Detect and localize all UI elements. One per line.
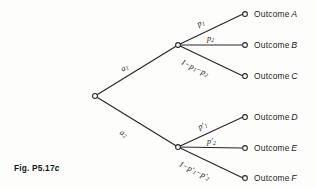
outcome-label-a: OutcomeA [254, 10, 297, 19]
outcome-label-f: OutcomeF [254, 174, 297, 183]
chance-node-lower [176, 145, 181, 150]
outcome-label-d: OutcomeD [254, 113, 298, 122]
outcome-label-b: OutcomeB [254, 41, 297, 50]
prob-label-outcome-b: p2 [207, 35, 214, 44]
terminal-node-outcome-e [243, 146, 248, 151]
branch-line-a2 [95, 96, 178, 147]
figure-caption: Fig. P5.17c [14, 163, 60, 173]
terminal-node-outcome-f [243, 176, 248, 181]
terminal-node-outcome-c [243, 74, 248, 79]
tree-canvas [0, 0, 316, 189]
root-decision-node [93, 94, 98, 99]
terminal-node-outcome-a [243, 12, 248, 17]
terminal-node-outcome-b [243, 43, 248, 48]
outcome-label-c: OutcomeC [254, 72, 298, 81]
terminal-node-outcome-d [243, 115, 248, 120]
prob-label-outcome-e: p′2 [207, 138, 216, 147]
chance-node-upper [176, 43, 181, 48]
decision-tree-figure: a1 a2 p1 p2 1−p1−p2 p′1 p′2 1−p′1−p′2 Ou… [0, 0, 316, 189]
branch-line-a1 [95, 45, 178, 96]
outcome-label-e: OutcomeE [254, 144, 297, 153]
